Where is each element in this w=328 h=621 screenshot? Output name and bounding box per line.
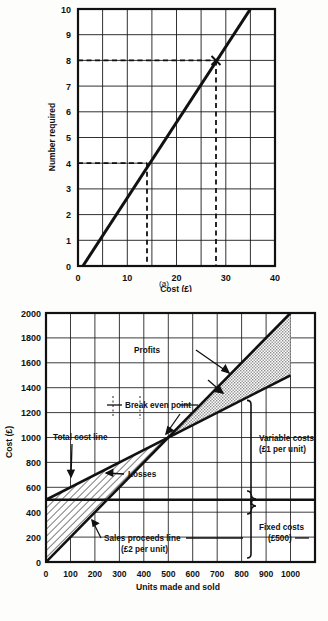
break-even-label: Break even point [125, 401, 191, 410]
sales-proceeds-rate-label: (£2 per unit) [121, 545, 168, 554]
chart-b-ytick: 2000 [21, 309, 41, 319]
chart-b-xtick: 300 [112, 569, 127, 579]
chart-b-ytick: 1600 [21, 358, 41, 368]
chart-a-ytick: 10 [61, 5, 71, 15]
chart-b-ytick: 800 [26, 458, 41, 468]
chart-b-ytick: 1800 [21, 333, 41, 343]
chart-b-ytick: 200 [26, 533, 41, 543]
chart-b-xtick: 100 [63, 569, 78, 579]
chart-a-ytick: 9 [66, 30, 71, 40]
chart-a-ytick: 5 [66, 133, 71, 143]
chart-a-ytick: 8 [66, 56, 71, 66]
losses-label: Losses [128, 470, 157, 479]
chart-b-xtick: 500 [161, 569, 176, 579]
chart-b-xtick: 600 [186, 569, 201, 579]
chart-b-ytick: 1200 [21, 408, 41, 418]
chart-b-ytick: 1000 [21, 433, 41, 443]
total-cost-line-label: Total cost line [53, 433, 108, 442]
chart-b-xtick: 900 [259, 569, 274, 579]
chart-b-xtick: 1000 [281, 569, 300, 579]
chart-b-xtick: 800 [234, 569, 249, 579]
chart-a-y-tick-labels: 10 9 8 7 6 5 4 3 2 1 0 [61, 5, 71, 272]
chart-b-y-tick-labels: 2000 1800 1600 1400 1200 1000 800 600 40… [21, 309, 41, 568]
chart-b-xtick: 400 [137, 569, 152, 579]
fixed-costs-label: Fixed costs [259, 523, 304, 532]
chart-b-ytick: 400 [26, 508, 41, 518]
chart-a-y-axis-label: Number required [47, 103, 57, 172]
chart-a-ytick: 0 [66, 262, 71, 272]
chart-a-ytick: 7 [66, 82, 71, 92]
profits-label: Profits [134, 346, 160, 355]
chart-b-ytick: 0 [36, 558, 41, 568]
chart-b-ytick: 600 [26, 483, 41, 493]
variable-costs-label: Variable costs [259, 434, 315, 443]
chart-a-ytick: 2 [66, 210, 71, 220]
chart-b-xtick: 700 [210, 569, 225, 579]
chart-a-ytick: 6 [66, 107, 71, 117]
chart-b-xtick: 200 [88, 569, 103, 579]
fixed-costs-amount-label: (£500) [268, 534, 292, 543]
chart-a-ytick: 4 [66, 159, 71, 169]
chart-b-xtick: 0 [44, 569, 49, 579]
chart-b-y-axis-label: Cost (£) [4, 426, 14, 458]
chart-a-caption: (a) [0, 279, 328, 288]
sales-proceeds-label: Sales proceeds line [104, 534, 181, 543]
variable-costs-rate-label: (£1 per unit) [259, 445, 306, 454]
chart-a-ytick: 1 [66, 236, 71, 246]
chart-a-figure: 10 9 8 7 6 5 4 3 2 1 0 0 10 20 30 40 [0, 0, 328, 292]
chart-b-ytick: 1400 [21, 383, 41, 393]
chart-b-x-tick-labels: 0 100 200 300 400 500 600 700 800 900 10… [44, 569, 301, 579]
figure-page: 10 9 8 7 6 5 4 3 2 1 0 0 10 20 30 40 [0, 0, 328, 621]
chart-a-ytick: 3 [66, 184, 71, 194]
chart-b-figure: Profits Break even point Total cost line… [0, 292, 328, 621]
chart-b-x-axis-label: Units made and sold [136, 582, 220, 592]
